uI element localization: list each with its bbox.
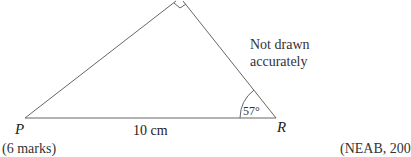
vertex-label-p: P xyxy=(15,122,24,137)
side-pr-length: 10 cm xyxy=(133,124,168,138)
note-line-2: accurately xyxy=(250,53,310,70)
note-line-1: Not drawn xyxy=(250,36,310,53)
side-pq xyxy=(25,1,176,118)
angle-r-label: 57° xyxy=(243,104,260,119)
source-citation: (NEAB, 200 xyxy=(340,141,411,157)
vertex-label-r: R xyxy=(277,120,286,135)
marks-label: (6 marks) xyxy=(2,141,56,157)
not-drawn-accurately-note: Not drawn accurately xyxy=(250,36,310,70)
right-angle-marker xyxy=(174,3,186,8)
